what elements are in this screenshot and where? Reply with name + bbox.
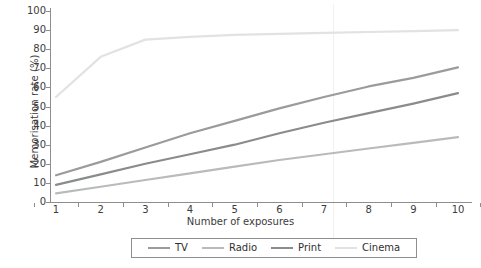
x-tick-label: 7 [312, 204, 336, 216]
series-line-cinema [56, 30, 458, 97]
series-line-print [56, 93, 458, 185]
x-tick-label: 10 [446, 204, 470, 216]
legend-label: TV [175, 243, 188, 253]
memorisation-rate-line-chart: Memorisation rate (%) 010203040506070809… [0, 0, 481, 268]
chart-legend: TVRadioPrintCinema [131, 238, 417, 258]
x-tick-label: 4 [178, 204, 202, 216]
legend-entry-radio[interactable]: Radio [202, 243, 257, 253]
x-tick-label: 3 [133, 204, 157, 216]
x-tick-label: 5 [223, 204, 247, 216]
series-line-radio [56, 137, 458, 193]
x-tick-label: 2 [89, 204, 113, 216]
legend-label: Radio [229, 243, 257, 253]
legend-entry-print[interactable]: Print [271, 243, 321, 253]
legend-entry-cinema[interactable]: Cinema [335, 243, 400, 253]
legend-line-swatch-icon [335, 247, 357, 249]
legend-entry-tv[interactable]: TV [148, 243, 188, 253]
plot-area [0, 0, 481, 268]
x-tick-label: 1 [44, 204, 68, 216]
x-tick-label: 6 [267, 204, 291, 216]
series-line-tv [56, 67, 458, 175]
legend-line-swatch-icon [148, 247, 170, 249]
legend-label: Print [298, 243, 321, 253]
legend-line-swatch-icon [202, 247, 224, 249]
legend-line-swatch-icon [271, 247, 293, 249]
x-tick-label: 8 [357, 204, 381, 216]
x-tick-label: 9 [401, 204, 425, 216]
legend-label: Cinema [362, 243, 400, 253]
x-axis-title: Number of exposures [0, 216, 481, 227]
